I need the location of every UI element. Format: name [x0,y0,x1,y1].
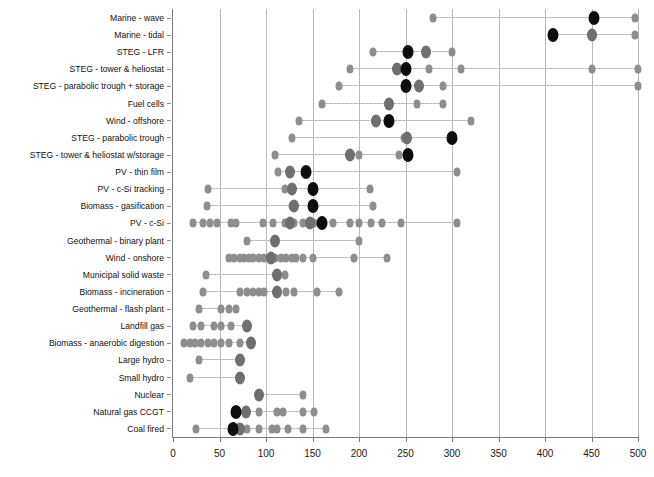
data-point-minor [225,339,232,348]
data-point-minor [295,116,302,125]
data-point-minor [318,99,325,108]
chart-row [173,420,638,438]
row-range-line [339,85,638,86]
data-point-minor [458,65,465,74]
data-point-minor [190,322,197,331]
y-tick-mark [167,172,171,173]
chart-row [173,351,638,369]
data-point-mid [272,285,282,298]
chart-row [173,163,638,181]
x-tick-mark [406,438,407,442]
data-point-minor [300,390,307,399]
data-point-minor [356,219,363,228]
x-tick-mark [266,438,267,442]
y-tick-mark [167,137,171,138]
data-point-major [400,62,411,76]
data-point-minor [236,287,243,296]
data-point-minor [196,356,203,365]
data-point-major [589,11,600,25]
data-point-mid [235,371,245,384]
data-point-minor [368,219,375,228]
data-point-minor [311,407,318,416]
category-label: Geothermal - binary plant [67,232,164,250]
x-tick-label: 200 [351,448,368,459]
chart-row [173,369,638,387]
y-tick-mark [167,309,171,310]
data-point-minor [367,185,374,194]
x-tick-label: 500 [630,448,647,459]
data-point-minor [255,407,262,416]
data-point-minor [413,99,420,108]
category-label: Coal fired [127,420,164,438]
x-tick-mark [638,438,639,442]
data-point-minor [197,322,204,331]
x-tick-label: 250 [397,448,414,459]
x-tick-mark [313,438,314,442]
y-tick-mark [167,223,171,224]
data-point-mid [266,251,276,264]
row-range-line [292,137,452,138]
data-point-mid [285,217,295,230]
category-label: Biomass - gasification [80,197,164,215]
chart-row [173,386,638,404]
data-point-minor [199,219,206,228]
x-tick-label: 150 [304,448,321,459]
category-label: STEG - tower & heliostat w/storage [30,146,164,164]
chart-row [173,334,638,352]
data-point-minor [635,65,642,74]
chart-row [173,77,638,95]
y-tick-mark [167,35,171,36]
data-point-major [400,79,411,93]
x-tick-mark [545,438,546,442]
data-point-mid [289,200,299,213]
data-point-minor [335,82,342,91]
data-point-minor [395,150,402,159]
data-point-major [447,131,458,145]
data-point-minor [218,322,225,331]
data-point-minor [300,424,307,433]
x-tick-label: 300 [444,448,461,459]
y-tick-mark [167,86,171,87]
chart-row [173,26,638,44]
y-tick-mark [167,18,171,19]
data-point-major [403,45,414,59]
chart-row [173,300,638,318]
data-point-minor [300,407,307,416]
category-label: STEG - tower & heliostat [69,60,164,78]
y-tick-mark [167,189,171,190]
data-point-major [548,28,559,42]
data-point-minor [346,219,353,228]
data-point-minor [190,219,197,228]
category-label: Wind - onshore [106,249,164,267]
category-label: Nuclear [134,386,164,404]
data-point-minor [186,373,193,382]
data-point-minor [453,168,460,177]
y-tick-mark [167,394,171,395]
x-tick-label: 100 [258,448,275,459]
row-range-line [259,394,303,395]
y-tick-mark [167,240,171,241]
data-point-mid [254,388,264,401]
category-label: PV - c-Si tracking [98,180,164,198]
data-point-minor [369,48,376,57]
category-axis: Marine - waveMarine - tidalSTEG - LFRSTE… [0,9,170,437]
data-point-mid [414,80,424,93]
data-point-mid [287,183,297,196]
chart-row [173,197,638,215]
data-point-minor [283,287,290,296]
category-label: Wind - offshore [106,112,164,130]
chart-row [173,180,638,198]
x-tick-mark [592,438,593,442]
row-range-line [190,377,240,378]
data-point-minor [205,185,212,194]
x-tick-label: 0 [170,448,176,459]
chart-row [173,43,638,61]
data-point-major [307,199,318,213]
data-point-mid [402,131,412,144]
data-point-mid [371,114,381,127]
data-point-minor [197,339,204,348]
category-label: Municipal solid waste [83,266,164,284]
data-point-minor [290,287,297,296]
chart-row [173,146,638,164]
category-label: Biomass - incineration [79,283,164,301]
